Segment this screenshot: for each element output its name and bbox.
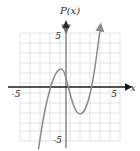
graph-canvas: P(x) 5 -5 -5 5 x <box>0 0 140 151</box>
y-axis-tick-5-label: 5 <box>55 31 61 41</box>
x-axis-tick-5-label: 5 <box>111 89 117 99</box>
y-axis-tick-minus5-label: -5 <box>53 135 62 145</box>
graph-title-label: P(x) <box>59 5 80 16</box>
x-axis-tick-minus5-label: -5 <box>12 89 21 99</box>
polynomial-graph-figure: P(x) 5 -5 -5 5 x <box>0 0 140 151</box>
x-axis-label: x <box>130 83 135 93</box>
